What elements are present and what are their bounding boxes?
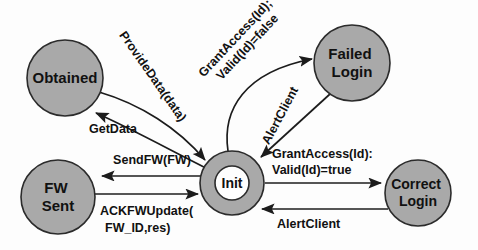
failed-login-label: Failed Login bbox=[328, 45, 376, 80]
state-node-correct-login[interactable]: Correct Login bbox=[385, 160, 451, 226]
edge-alert-client-correct: AlertClient bbox=[262, 209, 388, 231]
edge-grant-access-false: GrantAccess(Id); Valid(Id)=false bbox=[196, 0, 312, 151]
edge-ack-fw-update-label: ACKFWUpdate( FW_ID,res) bbox=[100, 204, 197, 235]
edge-grant-access-false-label: GrantAccess(Id); Valid(Id)=false bbox=[196, 0, 288, 90]
state-machine-diagram: ProvideData(data) GetData GrantAccess(Id… bbox=[0, 0, 478, 250]
edge-alert-client-failed-label: AlertClient bbox=[259, 84, 301, 147]
edge-get-data-label: GetData bbox=[89, 122, 138, 136]
edge-alert-client-failed: AlertClient bbox=[259, 84, 330, 157]
init-label: Init bbox=[222, 175, 243, 191]
obtained-label: Obtained bbox=[32, 69, 97, 86]
edge-grant-access-true: GrantAccess(Id): Valid(Id)=true bbox=[265, 147, 381, 183]
correct-login-label: Correct Login bbox=[391, 176, 445, 209]
edge-send-fw: SendFW(FW) bbox=[102, 153, 202, 176]
edge-send-fw-label: SendFW(FW) bbox=[113, 153, 191, 167]
state-node-failed-login[interactable]: Failed Login bbox=[314, 25, 390, 101]
fw-sent-label: FW Sent bbox=[42, 179, 75, 214]
state-diagram-canvas: ProvideData(data) GetData GrantAccess(Id… bbox=[0, 0, 478, 250]
edge-grant-access-true-label: GrantAccess(Id): Valid(Id)=true bbox=[272, 147, 376, 177]
edge-alert-client-correct-label: AlertClient bbox=[277, 217, 341, 231]
state-node-obtained[interactable]: Obtained bbox=[27, 40, 103, 116]
edge-provide-data-label: ProvideData(data) bbox=[116, 29, 189, 125]
state-node-fw-sent[interactable]: FW Sent bbox=[21, 160, 95, 234]
state-node-init[interactable]: Init bbox=[200, 151, 264, 215]
edge-ack-fw-update: ACKFWUpdate( FW_ID,res) bbox=[95, 194, 198, 235]
